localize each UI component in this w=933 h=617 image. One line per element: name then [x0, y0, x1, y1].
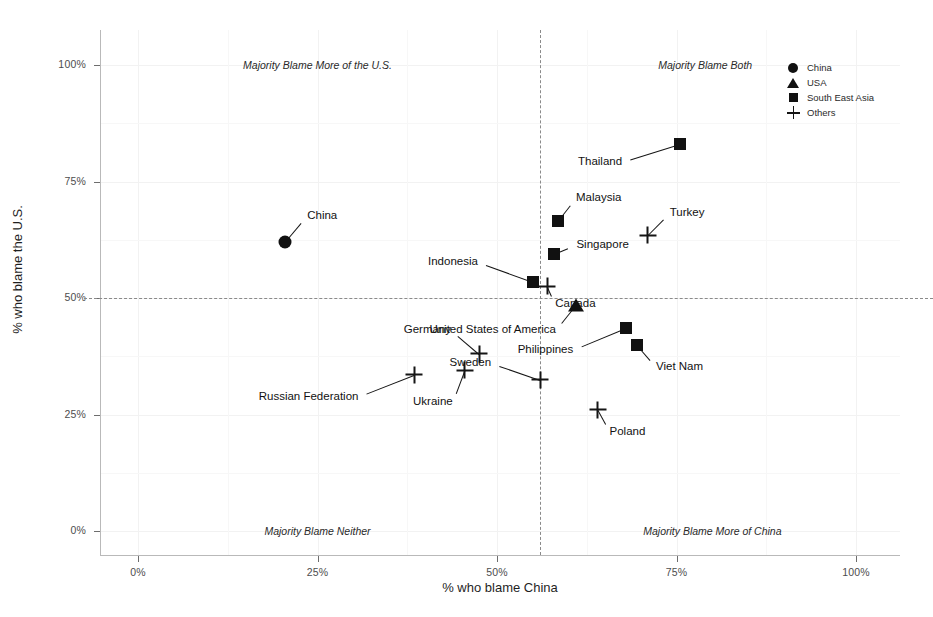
- gridline-vertical-minor: [228, 30, 229, 555]
- chart-canvas: 0%25%50%75%100%0%25%50%75%100% Majority …: [0, 0, 933, 617]
- data-point-label: China: [307, 209, 337, 221]
- plot-panel: [100, 30, 900, 555]
- x-axis-tick: [856, 556, 857, 562]
- legend-item-label: Others: [807, 107, 836, 118]
- legend: ChinaUSASouth East AsiaOthers: [783, 60, 918, 120]
- y-axis-tick-label: 100%: [38, 58, 86, 70]
- gridline-vertical: [677, 30, 678, 555]
- data-point-label: Philippines: [518, 343, 574, 355]
- gridline-vertical: [138, 30, 139, 555]
- y-axis-tick: [94, 65, 100, 66]
- y-axis-tick: [94, 531, 100, 532]
- y-axis-title: % who blame the U.S.: [10, 30, 25, 510]
- gridline-vertical-minor: [407, 30, 408, 555]
- gridline-vertical: [318, 30, 319, 555]
- gridline-horizontal-minor: [100, 240, 900, 241]
- y-axis-tick-label: 25%: [38, 408, 86, 420]
- quadrant-label: Majority Blame More of the U.S.: [243, 59, 392, 71]
- legend-item-label: China: [807, 62, 832, 73]
- quadrant-label: Majority Blame Neither: [264, 525, 370, 537]
- data-point-marker[interactable]: [639, 227, 656, 244]
- x-axis-tick: [497, 556, 498, 562]
- x-axis-tick-label: 50%: [467, 566, 527, 578]
- data-point-marker[interactable]: [589, 401, 606, 418]
- gridline-horizontal: [100, 182, 900, 183]
- legend-item-label: USA: [807, 77, 827, 88]
- y-axis-tick-label: 75%: [38, 175, 86, 187]
- x-axis-tick-label: 100%: [826, 566, 886, 578]
- data-point-marker[interactable]: [631, 339, 643, 351]
- y-axis-tick-label: 0%: [38, 524, 86, 536]
- x-axis-tick-label: 0%: [108, 566, 168, 578]
- gridline-vertical-minor: [766, 30, 767, 555]
- x-axis-tick: [138, 556, 139, 562]
- y-axis-tick: [94, 182, 100, 183]
- data-point-marker[interactable]: [539, 278, 556, 295]
- gridline-horizontal-minor: [100, 356, 900, 357]
- legend-item-china[interactable]: China: [783, 60, 918, 75]
- y-axis-tick-label: 50%: [38, 291, 86, 303]
- data-point-label: Viet Nam: [656, 360, 703, 372]
- x-axis-title: % who blame China: [100, 580, 900, 595]
- data-point-label: Russian Federation: [259, 390, 359, 402]
- legend-item-south-east-asia[interactable]: South East Asia: [783, 90, 918, 105]
- data-point-marker[interactable]: [548, 248, 560, 260]
- data-point-marker[interactable]: [620, 322, 632, 334]
- gridline-horizontal-minor: [100, 473, 900, 474]
- data-point-label: Indonesia: [428, 255, 478, 267]
- data-point-label: Canada: [555, 297, 595, 309]
- legend-item-others[interactable]: Others: [783, 105, 918, 120]
- data-point-label: Germany: [404, 323, 451, 335]
- x-axis-tick-label: 25%: [288, 566, 348, 578]
- data-point-label: Sweden: [450, 356, 492, 368]
- gridline-vertical-minor: [587, 30, 588, 555]
- square-marker-icon: [783, 90, 803, 105]
- x-axis-tick: [677, 556, 678, 562]
- data-point-marker[interactable]: [279, 236, 292, 249]
- gridline-vertical: [497, 30, 498, 555]
- x-axis-tick: [318, 556, 319, 562]
- plus-marker-icon: [783, 105, 803, 120]
- data-point-marker[interactable]: [674, 138, 686, 150]
- gridline-horizontal-minor: [100, 123, 900, 124]
- data-point-marker[interactable]: [527, 276, 539, 288]
- data-point-label: Malaysia: [576, 191, 621, 203]
- gridline-horizontal: [100, 415, 900, 416]
- circle-marker-icon: [783, 60, 803, 75]
- x-axis-tick-label: 75%: [647, 566, 707, 578]
- data-point-marker[interactable]: [406, 366, 423, 383]
- data-point-label: Ukraine: [413, 395, 453, 407]
- triangle-marker-icon: [783, 75, 803, 90]
- data-point-label: Thailand: [578, 155, 622, 167]
- data-point-marker[interactable]: [532, 371, 549, 388]
- gridline-horizontal: [100, 65, 900, 66]
- data-point-label: Singapore: [576, 238, 628, 250]
- y-axis-line: [100, 30, 101, 555]
- reference-line-horizontal: [84, 298, 933, 299]
- y-axis-tick: [94, 415, 100, 416]
- x-axis-line: [100, 555, 900, 556]
- quadrant-label: Majority Blame More of China: [643, 525, 781, 537]
- quadrant-label: Majority Blame Both: [658, 59, 752, 71]
- data-point-label: Turkey: [670, 206, 705, 218]
- data-point-label: Poland: [610, 425, 646, 437]
- legend-item-usa[interactable]: USA: [783, 75, 918, 90]
- legend-item-label: South East Asia: [807, 92, 874, 103]
- data-point-marker[interactable]: [552, 215, 564, 227]
